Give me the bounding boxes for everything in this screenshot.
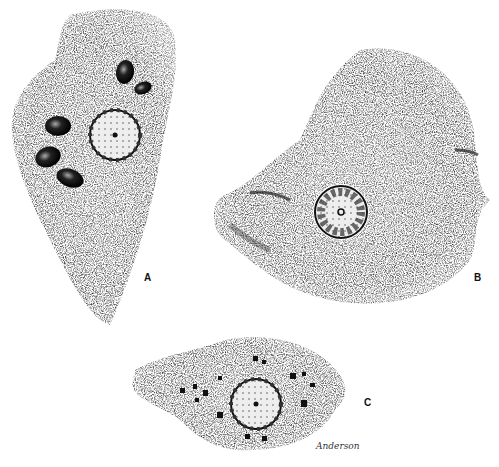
panel-a-cell xyxy=(12,9,176,325)
artist-signature: Anderson xyxy=(316,441,360,451)
panel-a-label: A xyxy=(144,272,151,283)
illustration-canvas xyxy=(0,0,499,467)
panel-a-nucleus xyxy=(88,108,142,162)
panel-b-nucleus xyxy=(313,184,369,240)
panel-c-cell xyxy=(132,337,345,450)
panel-c-label: C xyxy=(364,397,371,408)
panel-b-label: B xyxy=(474,272,481,283)
panel-b-cell xyxy=(214,48,490,303)
panel-c-nucleus xyxy=(229,377,283,431)
